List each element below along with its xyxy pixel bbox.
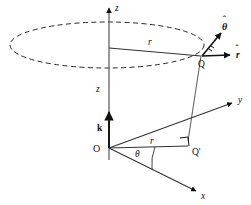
radius-upper-label: r [148, 37, 152, 47]
cylindrical-coordinates-figure: z z r r θ O Q Q' k r ˆ θ ˆ x y [0, 0, 251, 205]
z-axis-label: z [114, 3, 119, 13]
unit-r-hat-label-group: r ˆ [236, 43, 241, 60]
point-q-label: Q [198, 59, 205, 69]
unit-k-label: k [97, 123, 103, 133]
right-angle-marker [180, 137, 189, 146]
radius-lower-label: r [150, 136, 154, 146]
dashed-ellipse [10, 22, 204, 68]
unit-r-hat-vector [202, 55, 230, 56]
r-hat-accent: ˆ [236, 43, 239, 53]
unit-theta-hat-label-group: θ ˆ [222, 14, 228, 32]
height-z-label: z [95, 84, 100, 94]
figure-canvas: z z r r θ O Q Q' k r ˆ θ ˆ x y [0, 0, 251, 205]
x-axis-label: x [200, 191, 206, 201]
angle-theta-label: θ [135, 149, 140, 159]
point-q-prime-label: Q' [192, 147, 201, 157]
radius-lower-line [109, 146, 188, 148]
y-axis-line [109, 103, 232, 148]
y-axis-label: y [237, 95, 243, 105]
origin-label: O [93, 143, 100, 154]
radius-upper-line [109, 48, 201, 56]
theta-hat-accent: ˆ [223, 14, 226, 24]
unit-theta-hat-vector [202, 33, 221, 56]
theta-arc [152, 147, 155, 169]
